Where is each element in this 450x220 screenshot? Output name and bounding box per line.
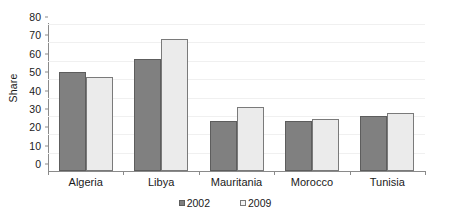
bar-morocco-2009[interactable]: [312, 119, 339, 171]
bar-libya-2002[interactable]: [134, 59, 161, 171]
y-axis-tick-label: 70: [29, 29, 41, 41]
bar-algeria-2009[interactable]: [86, 77, 113, 171]
bar-group: [48, 24, 123, 171]
chart-legend: 20022009: [0, 197, 450, 209]
legend-label-2009: 2009: [248, 197, 271, 209]
x-axis-tick-mark: [350, 171, 351, 175]
x-axis-tick-mark: [425, 171, 426, 175]
bar-group: [199, 24, 274, 171]
bar-algeria-2002[interactable]: [59, 72, 86, 171]
y-axis-tick-label: 40: [29, 85, 41, 97]
legend-item-2002[interactable]: 2002: [179, 197, 210, 209]
bar-morocco-2002[interactable]: [285, 121, 312, 171]
y-axis-tick-label: 0: [35, 158, 41, 170]
x-axis-label-tunisia: Tunisia: [350, 176, 425, 188]
x-axis-label-algeria: Algeria: [48, 176, 123, 188]
y-axis-tick-label: 10: [29, 140, 41, 152]
y-axis-tick-label: 60: [29, 48, 41, 60]
bar-group: [350, 24, 425, 171]
x-axis-label-mauritania: Mauritania: [199, 176, 274, 188]
y-axis-tick-label: 80: [29, 11, 41, 23]
x-axis-tick-marks: [48, 171, 425, 175]
legend-swatch-2002: [179, 200, 185, 206]
y-axis-tick-labels: 01020304050607080: [22, 17, 45, 171]
x-axis-tick-mark: [48, 171, 49, 175]
y-axis-title: Share: [2, 0, 24, 175]
bar-mauritania-2009[interactable]: [237, 107, 264, 171]
bar-tunisia-2002[interactable]: [360, 116, 387, 171]
x-axis-category-labels: AlgeriaLibyaMauritaniaMoroccoTunisia: [48, 176, 425, 188]
legend-swatch-2009: [240, 200, 246, 206]
bar-group: [274, 24, 349, 171]
bar-groups: [48, 24, 425, 171]
y-axis-tick-mark: [45, 17, 48, 18]
y-axis-tick-label: 50: [29, 66, 41, 78]
x-axis-tick-mark: [123, 171, 124, 175]
bar-chart: Share 01020304050607080 AlgeriaLibyaMaur…: [0, 0, 450, 220]
legend-item-2009[interactable]: 2009: [240, 197, 271, 209]
bar-libya-2009[interactable]: [161, 39, 188, 171]
x-axis-tick-mark: [199, 171, 200, 175]
x-axis-label-morocco: Morocco: [274, 176, 349, 188]
y-axis-tick-label: 20: [29, 121, 41, 133]
y-axis-tick-label: 30: [29, 103, 41, 115]
x-axis-label-libya: Libya: [123, 176, 198, 188]
x-axis-tick-mark: [274, 171, 275, 175]
bar-mauritania-2002[interactable]: [210, 121, 237, 171]
bar-tunisia-2009[interactable]: [387, 113, 414, 171]
legend-label-2002: 2002: [187, 197, 210, 209]
y-axis-title-text: Share: [7, 73, 19, 102]
bar-group: [123, 24, 198, 171]
